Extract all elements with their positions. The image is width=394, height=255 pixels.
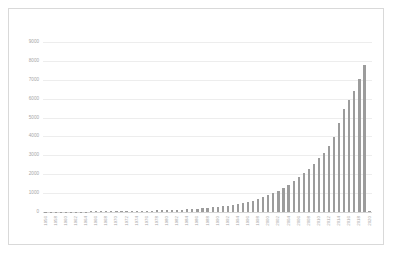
- x-axis-tick-label: 2018: [357, 216, 361, 226]
- x-axis-tick-label: 1980: [165, 216, 169, 226]
- y-axis-tick-label: 2000: [29, 172, 39, 177]
- bar[interactable]: [272, 193, 274, 212]
- x-axis-tick-label: 2008: [307, 216, 311, 226]
- x-axis-tick-label: 1982: [175, 216, 179, 226]
- bar[interactable]: [131, 211, 133, 212]
- bar[interactable]: [201, 208, 203, 212]
- bar[interactable]: [95, 211, 97, 212]
- x-axis-tick-label: 2016: [347, 216, 351, 226]
- x-axis-tick-label: 1974: [134, 216, 138, 226]
- bar[interactable]: [156, 210, 158, 212]
- bar-slot: [367, 42, 372, 212]
- bar[interactable]: [368, 211, 370, 212]
- y-axis-tick-label: 9000: [29, 40, 39, 45]
- bar[interactable]: [212, 207, 214, 212]
- bar[interactable]: [303, 173, 305, 212]
- x-axis-tick-label: 1968: [104, 216, 108, 226]
- bar[interactable]: [308, 169, 310, 212]
- bar[interactable]: [100, 211, 102, 212]
- bar[interactable]: [65, 212, 67, 213]
- y-axis-tick-label: 3000: [29, 153, 39, 158]
- bar[interactable]: [161, 210, 163, 212]
- bar[interactable]: [50, 212, 52, 213]
- bar[interactable]: [186, 209, 188, 212]
- bar[interactable]: [257, 199, 259, 212]
- bar[interactable]: [125, 211, 127, 212]
- x-axis-tick-label: 1978: [155, 216, 159, 226]
- x-axis-tick-label: 1988: [205, 216, 209, 226]
- bar[interactable]: [348, 100, 350, 212]
- bar[interactable]: [267, 195, 269, 212]
- bar[interactable]: [151, 211, 153, 213]
- bar[interactable]: [120, 211, 122, 212]
- chart-frame: 9000800070006000500040003000200010000 19…: [8, 8, 384, 245]
- x-axis-tick-label: 1992: [226, 216, 230, 226]
- x-axis-tick-label: 2020: [367, 216, 371, 226]
- bar[interactable]: [196, 209, 198, 212]
- bar[interactable]: [80, 212, 82, 213]
- x-axis-tick-label: 1990: [215, 216, 219, 226]
- bar[interactable]: [277, 191, 279, 212]
- bar[interactable]: [110, 211, 112, 212]
- bar[interactable]: [293, 181, 295, 212]
- x-axis-tick-label: 1956: [43, 216, 47, 226]
- bar[interactable]: [323, 153, 325, 213]
- bar[interactable]: [333, 137, 335, 212]
- bar[interactable]: [358, 79, 360, 212]
- axis-zero-line: [43, 212, 372, 213]
- bar[interactable]: [298, 177, 300, 212]
- x-axis-tick-label: 1960: [64, 216, 68, 226]
- chart-plot-wrapper: 9000800070006000500040003000200010000 19…: [9, 9, 383, 244]
- x-axis-tick-label: 2000: [266, 216, 270, 226]
- bar[interactable]: [318, 158, 320, 212]
- x-axis-tick-label: 2006: [296, 216, 300, 226]
- y-axis-tick-label: 5000: [29, 115, 39, 120]
- x-axis-tick-label: 1976: [145, 216, 149, 226]
- x-axis-tick-label: 2010: [317, 216, 321, 226]
- bar[interactable]: [105, 211, 107, 212]
- bar[interactable]: [90, 211, 92, 212]
- plot-area: 9000800070006000500040003000200010000: [43, 42, 372, 212]
- bar[interactable]: [206, 208, 208, 212]
- bar[interactable]: [55, 212, 57, 213]
- bar[interactable]: [70, 212, 72, 213]
- bar[interactable]: [136, 211, 138, 212]
- bar[interactable]: [222, 206, 224, 212]
- x-axis-tick-label: 1984: [185, 216, 189, 226]
- bar[interactable]: [313, 164, 315, 212]
- bar[interactable]: [85, 212, 87, 213]
- bar[interactable]: [171, 210, 173, 212]
- bar[interactable]: [191, 209, 193, 212]
- bar[interactable]: [166, 210, 168, 212]
- bar[interactable]: [141, 211, 143, 212]
- bar[interactable]: [146, 211, 148, 212]
- bar[interactable]: [242, 203, 244, 212]
- bar[interactable]: [262, 197, 264, 212]
- y-axis-tick-label: 1000: [29, 191, 39, 196]
- bar[interactable]: [247, 202, 249, 212]
- bar[interactable]: [75, 212, 77, 213]
- bar[interactable]: [181, 210, 183, 212]
- bar[interactable]: [338, 123, 340, 212]
- x-axis-tick-label: 1966: [94, 216, 98, 226]
- x-axis-tick-label: 1998: [256, 216, 260, 226]
- x-axis-tick-label: 1958: [53, 216, 57, 226]
- x-axis-tick-label: 1996: [246, 216, 250, 226]
- bar[interactable]: [227, 206, 229, 212]
- bar[interactable]: [363, 65, 365, 212]
- bar[interactable]: [282, 188, 284, 212]
- bar[interactable]: [353, 91, 355, 212]
- bar[interactable]: [115, 211, 117, 212]
- bar[interactable]: [343, 109, 345, 212]
- bar[interactable]: [176, 210, 178, 212]
- x-axis-tick-label: 1986: [195, 216, 199, 226]
- bar[interactable]: [232, 205, 234, 212]
- bar[interactable]: [60, 212, 62, 213]
- x-axis-tick-label: 1962: [74, 216, 78, 226]
- bar[interactable]: [237, 204, 239, 212]
- bar[interactable]: [287, 185, 289, 212]
- bar[interactable]: [252, 201, 254, 212]
- bar[interactable]: [44, 212, 46, 213]
- bar[interactable]: [328, 146, 330, 212]
- bar[interactable]: [217, 207, 219, 212]
